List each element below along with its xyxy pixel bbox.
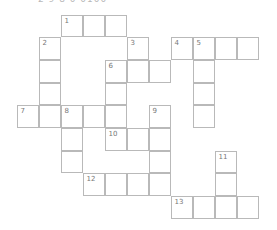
crossword-cell[interactable]: 6 [105,60,127,83]
clue-number: 10 [109,131,118,138]
crossword-cell[interactable]: 13 [171,196,193,219]
crossword-cell[interactable] [83,15,105,38]
crossword-cell[interactable]: 3 [127,37,149,60]
crossword-cell[interactable] [215,37,237,60]
clue-number: 5 [197,40,201,47]
crossword-grid: 12345678910111213 [0,0,277,230]
crossword-cell[interactable] [83,105,105,128]
clue-number: 13 [175,199,184,206]
crossword-cell[interactable] [105,83,127,106]
crossword-cell[interactable] [193,83,215,106]
crossword-cell[interactable]: 10 [105,128,127,151]
crossword-cell[interactable]: 4 [171,37,193,60]
crossword-cell[interactable] [215,196,237,219]
crossword-cell[interactable] [39,83,61,106]
crossword-cell[interactable] [39,105,61,128]
clue-number: 11 [219,154,228,161]
crossword-cell[interactable] [105,105,127,128]
clue-number: 4 [175,40,179,47]
clue-number: 1 [65,18,69,25]
crossword-cell[interactable] [127,128,149,151]
crossword-cell[interactable] [149,60,171,83]
crossword-cell[interactable] [149,128,171,151]
crossword-cell[interactable]: 1 [61,15,83,38]
crossword-cell[interactable] [61,151,83,174]
crossword-cell[interactable]: 12 [83,173,105,196]
crossword-cell[interactable]: 9 [149,105,171,128]
crossword-cell[interactable]: 2 [39,37,61,60]
clue-number: 12 [87,176,96,183]
crossword-cell[interactable] [105,15,127,38]
crossword-cell[interactable]: 11 [215,151,237,174]
clue-number: 7 [21,108,25,115]
crossword-cell[interactable] [149,173,171,196]
clue-number: 2 [43,40,47,47]
crossword-cell[interactable] [127,173,149,196]
crossword-cell[interactable] [193,60,215,83]
crossword-cell[interactable] [127,60,149,83]
crossword-cell[interactable]: 5 [193,37,215,60]
crossword-cell[interactable]: 8 [61,105,83,128]
crossword-cell[interactable] [61,128,83,151]
crossword-cell[interactable] [237,196,259,219]
clue-number: 3 [131,40,135,47]
clue-number: 8 [65,108,69,115]
crossword-cell[interactable] [105,173,127,196]
clue-number: 6 [109,63,113,70]
crossword-cell[interactable] [215,173,237,196]
crossword-cell[interactable] [149,151,171,174]
crossword-cell[interactable] [193,196,215,219]
clue-number: 9 [153,108,157,115]
crossword-cell[interactable]: 7 [17,105,39,128]
crossword-cell[interactable] [237,37,259,60]
crossword-cell[interactable] [39,60,61,83]
crossword-cell[interactable] [193,105,215,128]
